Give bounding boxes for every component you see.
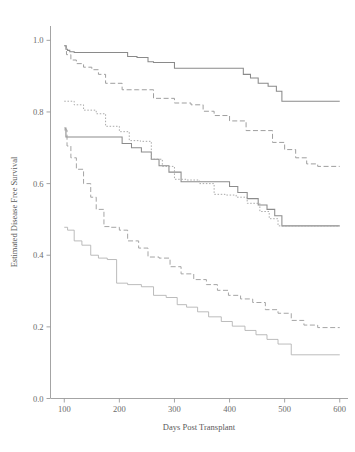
y-tick-label: 0.4 <box>33 250 44 260</box>
x-tick-label: 600 <box>333 404 346 414</box>
survival-curve-5 <box>64 130 339 328</box>
y-tick-label: 0.8 <box>33 107 44 117</box>
x-tick-label: 100 <box>58 404 71 414</box>
survival-curve-4 <box>64 101 339 226</box>
axes-layer: 0.00.20.40.60.81.0 100200300400500600 <box>33 26 348 414</box>
y-tick-label: 1.0 <box>33 35 44 45</box>
survival-plot-figure: 0.00.20.40.60.81.0 100200300400500600 Es… <box>0 0 355 452</box>
x-axis-title: Days Post Transplant <box>163 422 236 432</box>
x-axis-ticks: 100200300400500600 <box>58 399 346 414</box>
x-tick-label: 300 <box>168 404 181 414</box>
y-tick-label: 0.6 <box>33 179 44 189</box>
y-axis-ticks: 0.00.20.40.60.81.0 <box>33 35 51 403</box>
y-tick-label: 0.2 <box>33 322 44 332</box>
x-tick-label: 400 <box>223 404 236 414</box>
survival-curve-1 <box>64 46 339 102</box>
y-axis-title: Estimated Disease Free Survival <box>9 156 19 267</box>
curves-layer <box>64 46 339 355</box>
x-tick-label: 200 <box>113 404 126 414</box>
survival-curve-3 <box>64 128 339 226</box>
y-tick-label: 0.0 <box>33 394 44 404</box>
x-tick-label: 500 <box>278 404 291 414</box>
survival-curve-2 <box>64 46 339 167</box>
kaplan-meier-chart: 0.00.20.40.60.81.0 100200300400500600 Es… <box>0 0 355 452</box>
survival-curve-6 <box>64 227 339 355</box>
